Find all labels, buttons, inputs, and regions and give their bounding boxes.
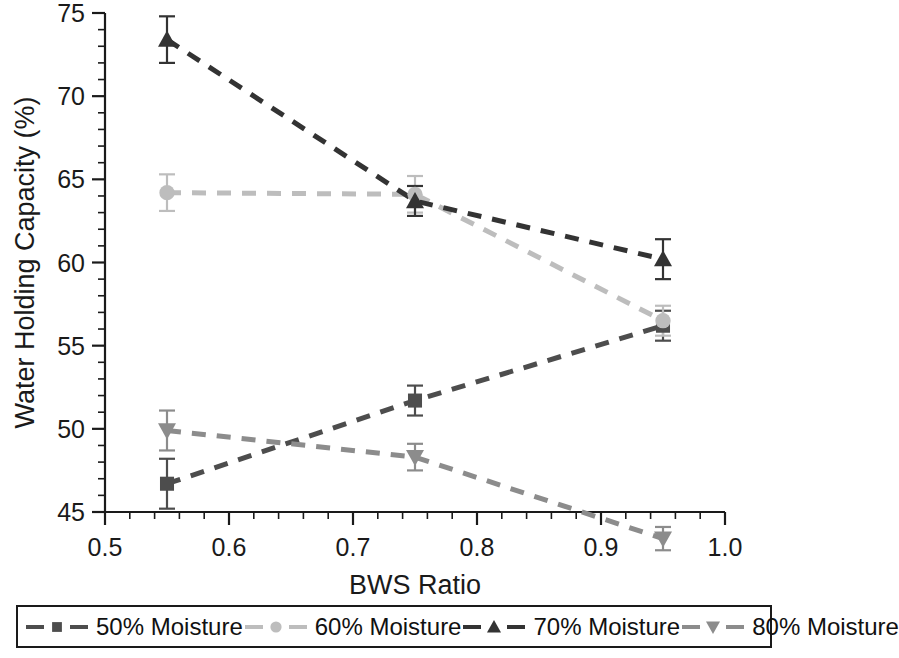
legend-item-label: 60% Moisture — [315, 613, 462, 641]
y-tick-label: 50 — [57, 415, 85, 443]
legend-key-square-icon — [24, 614, 90, 640]
series-70-moisture-marker-triangle-up — [158, 31, 176, 47]
legend-item-50-moisture[interactable]: 50% Moisture — [24, 613, 243, 641]
y-tick-label: 70 — [57, 82, 85, 110]
y-tick-label: 45 — [57, 498, 85, 526]
legend-key-circle-icon — [243, 614, 309, 640]
legend-key-triangle-down-icon — [680, 614, 746, 640]
series-60-moisture-marker-circle — [655, 313, 670, 328]
y-tick-label: 75 — [57, 0, 85, 27]
x-tick-label: 0.8 — [460, 533, 495, 561]
legend-item-label: 70% Moisture — [533, 613, 680, 641]
x-tick-label: 0.7 — [336, 533, 371, 561]
legend-item-80-moisture[interactable]: 80% Moisture — [680, 613, 899, 641]
legend-item-60-moisture[interactable]: 60% Moisture — [243, 613, 462, 641]
y-tick-label: 65 — [57, 165, 85, 193]
series-50-moisture-marker-square — [408, 394, 422, 408]
y-axis-title: Water Holding Capacity (%) — [10, 96, 40, 428]
x-tick-label: 1.0 — [708, 533, 743, 561]
series-80-moisture-marker-triangle-down — [654, 531, 672, 547]
legend-item-70-moisture[interactable]: 70% Moisture — [461, 613, 680, 641]
water-holding-capacity-plot: 455055606570750.50.60.70.80.91.0BWS Rati… — [0, 0, 794, 600]
series-60-moisture-marker-circle — [159, 185, 174, 200]
x-tick-label: 0.6 — [212, 533, 247, 561]
legend-key-triangle-up-icon — [461, 614, 527, 640]
x-tick-label: 0.9 — [584, 533, 619, 561]
chart-legend: 50% Moisture60% Moisture70% Moisture80% … — [16, 605, 772, 648]
x-axis-title: BWS Ratio — [349, 570, 481, 600]
y-tick-label: 60 — [57, 249, 85, 277]
y-tick-label: 55 — [57, 332, 85, 360]
series-line-70-moisture — [167, 40, 663, 260]
series-50-moisture-marker-square — [160, 477, 174, 491]
x-tick-label: 0.5 — [88, 533, 123, 561]
legend-item-label: 50% Moisture — [96, 613, 243, 641]
legend-item-label: 80% Moisture — [752, 613, 899, 641]
series-70-moisture-marker-triangle-up — [654, 250, 672, 266]
